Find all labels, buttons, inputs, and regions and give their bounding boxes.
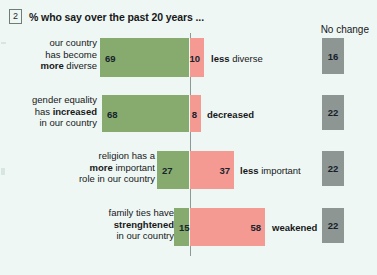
bar-segment-left: 15 [174,208,189,246]
category-label-line: in our country [116,230,174,241]
category-label-line: important [113,162,155,173]
right-label-rest: diverse [230,52,263,63]
nochange-value: 22 [328,107,339,118]
category-label-emphasis: strenghtened [114,219,174,230]
chart-row: family ties have strenghtened in our cou… [0,208,377,246]
category-label-line: in our country [39,117,97,128]
right-label-emphasis: weakened [272,222,317,233]
nochange-column-header: No change [321,24,369,35]
category-label-line: our country [49,37,97,48]
chart-row: our country has become more diverse 69 1… [0,38,377,77]
category-label: family ties have strenghtened in our cou… [109,207,174,242]
nochange-box: 16 [322,38,344,74]
category-label-line: diverse [64,60,97,71]
right-label-emphasis: less [211,52,230,63]
chart-row: religion has a more important role in ou… [0,151,377,189]
bar-segment-left: 27 [157,151,189,189]
category-label-line: religion has a [98,150,155,161]
right-axis-label: decreased [207,108,254,119]
bar-segment-right: 10 [190,38,204,77]
figure-number: 2 [9,9,22,24]
category-label: religion has a more important role in ou… [79,150,155,185]
category-label: gender equality has increased in our cou… [32,94,97,129]
category-label-line: gender equality [32,94,97,105]
right-label-emphasis: decreased [207,108,254,119]
bar-value-right: 58 [250,222,261,233]
figure-container: 2 % who say over the past 20 years ... N… [0,0,377,275]
category-label-line: role in our country [79,173,155,184]
right-label-rest: important [259,165,301,176]
bar-value-left: 68 [107,108,118,119]
figure-header: 2 % who say over the past 20 years ... [9,9,204,24]
bar-value-left: 27 [162,165,173,176]
bar-value-left: 69 [105,52,116,63]
nochange-value: 16 [328,51,339,62]
page-title: % who say over the past 20 years ... [29,11,204,23]
category-label-line: family ties have [109,207,174,218]
bar-segment-left: 68 [102,95,189,132]
bar-value-right: 10 [189,52,200,63]
category-label-emphasis: more [90,162,113,173]
bar-segment-right: 58 [190,208,265,246]
right-axis-label: less diverse [211,52,263,63]
category-label-line: has [35,106,53,117]
chart-row: gender equality has increased in our cou… [0,95,377,132]
nochange-box: 22 [322,95,344,130]
nochange-box: 22 [322,151,344,186]
nochange-value: 22 [328,220,339,231]
nochange-value: 22 [328,163,339,174]
bar-segment-right: 8 [190,95,201,132]
right-axis-label: weakened [272,222,317,233]
category-label-line: has become [45,49,97,60]
bar-segment-left: 69 [100,38,189,77]
nochange-box: 22 [322,208,344,243]
bar-segment-right: 37 [190,151,234,189]
right-axis-label: less important [240,165,301,176]
category-label: our country has become more diverse [41,37,98,72]
category-label-emphasis: more [41,60,64,71]
category-label-emphasis: increased [53,106,97,117]
bar-value-right: 37 [219,165,230,176]
right-label-emphasis: less [240,165,259,176]
bar-value-left: 15 [179,222,190,233]
bar-value-right: 8 [192,108,197,119]
